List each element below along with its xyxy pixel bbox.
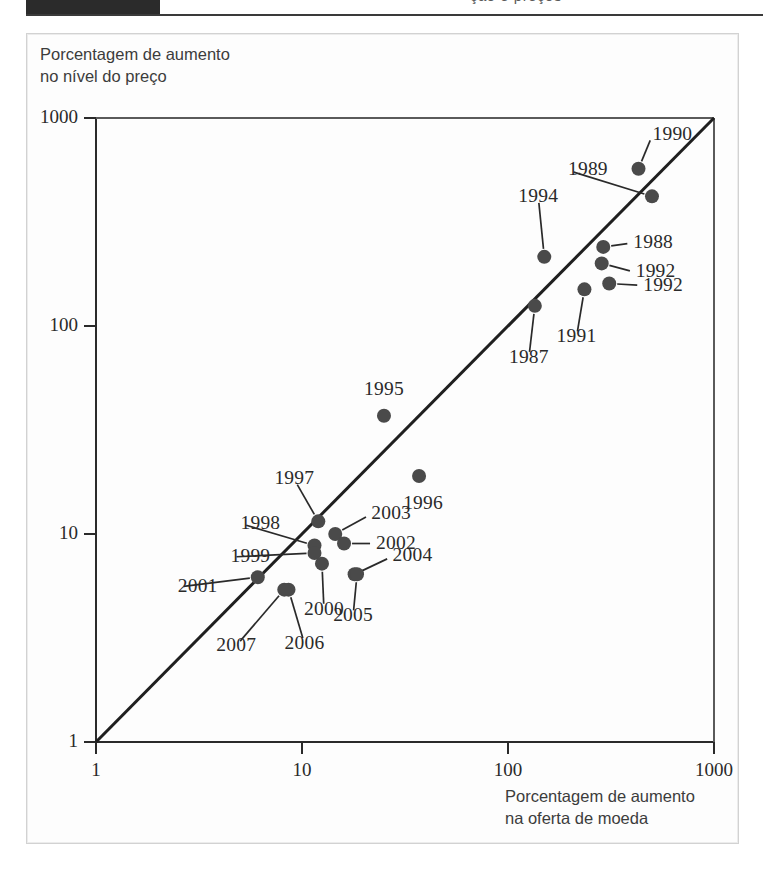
point-label-1992-5: 1992 bbox=[643, 274, 683, 296]
figure-frame bbox=[26, 33, 739, 844]
y-tick-label-1: 1 bbox=[69, 730, 79, 752]
page-header-bar bbox=[26, 0, 160, 14]
point-label-1989-1: 1989 bbox=[568, 158, 608, 180]
point-label-1999-13: 1999 bbox=[231, 545, 271, 567]
point-label-1995-8: 1995 bbox=[0, 378, 763, 400]
y-axis-title: Porcentagem de aumento no nível do preço bbox=[40, 43, 230, 88]
point-label-2007-20: 2007 bbox=[0, 634, 472, 656]
x-tick-label-1000: 1000 bbox=[0, 759, 763, 781]
point-label-2001-17: 2001 bbox=[178, 575, 218, 597]
point-label-1994-2: 1994 bbox=[0, 185, 763, 207]
point-label-1990-0: 1990 bbox=[652, 123, 692, 145]
y-tick-label-1000: 1000 bbox=[40, 106, 78, 128]
point-label-2004-16: 2004 bbox=[393, 544, 433, 566]
y-tick-label-10: 10 bbox=[59, 522, 78, 544]
page-header-rule bbox=[26, 14, 763, 16]
point-label-1991-6: 1991 bbox=[0, 325, 763, 347]
x-axis-title: Porcentagem de aumento na oferta de moed… bbox=[505, 785, 695, 830]
point-label-1998-12: 1998 bbox=[241, 512, 281, 534]
page-cutoff-text: ção e preços bbox=[470, 0, 562, 4]
point-label-1997-10: 1997 bbox=[0, 467, 589, 489]
point-label-2003-11: 2003 bbox=[371, 502, 411, 524]
point-label-1987-7: 1987 bbox=[0, 346, 763, 368]
point-label-2005-18: 2005 bbox=[0, 604, 706, 626]
point-label-1988-3: 1988 bbox=[633, 231, 673, 253]
